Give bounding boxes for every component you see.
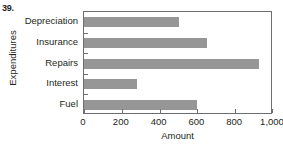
- y-axis-tick-label: Depreciation: [10, 16, 78, 26]
- plot-area: [83, 11, 272, 114]
- x-axis-tick: [122, 109, 123, 113]
- x-axis-title: Amount: [83, 130, 272, 141]
- x-axis-tick-label: 0: [80, 116, 85, 127]
- x-axis-tick: [197, 109, 198, 113]
- bar-insurance: [84, 38, 207, 48]
- x-axis-tick-label: 600: [188, 116, 204, 127]
- x-axis-tick: [160, 109, 161, 113]
- y-axis-tick-label: Fuel: [10, 99, 78, 109]
- bar-repairs: [84, 59, 259, 69]
- bar-depreciation: [84, 17, 179, 27]
- y-axis-tick: [84, 53, 88, 54]
- y-axis-tick-label: Interest: [10, 78, 78, 88]
- bar-chart-figure: 39. Expenditures DepreciationInsuranceRe…: [0, 0, 283, 148]
- x-axis-tick: [235, 109, 236, 113]
- x-axis-tick-label: 1,000: [260, 116, 283, 127]
- bar-interest: [84, 79, 137, 89]
- y-axis-tick-label: Insurance: [10, 37, 78, 47]
- y-axis-tick: [84, 33, 88, 34]
- bar-fuel: [84, 100, 197, 110]
- x-axis-tick-label: 200: [113, 116, 129, 127]
- x-axis-tick: [272, 109, 273, 113]
- x-axis-tick-labels: 02004006008001,000: [83, 116, 283, 130]
- y-axis-tick: [84, 74, 88, 75]
- x-axis-tick-label: 800: [226, 116, 242, 127]
- y-axis-tick: [84, 94, 88, 95]
- y-axis-tick-label: Repairs: [10, 58, 78, 68]
- x-axis-tick: [84, 109, 85, 113]
- y-axis-tick-labels: DepreciationInsuranceRepairsInterestFuel: [10, 0, 78, 148]
- x-axis-tick-label: 400: [151, 116, 167, 127]
